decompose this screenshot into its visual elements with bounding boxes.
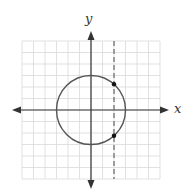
- intersection-point: [112, 82, 116, 86]
- plot-area: x y: [0, 0, 189, 193]
- x-axis-right-arrow-icon: [160, 107, 169, 114]
- y-axis-up-arrow-icon: [88, 31, 95, 40]
- y-axis-label: y: [84, 11, 93, 26]
- x-axis-label: x: [174, 101, 182, 116]
- intersection-point: [112, 134, 116, 138]
- y-axis-down-arrow-icon: [88, 180, 95, 189]
- axes: [12, 31, 169, 189]
- coordinate-plane-diagram: x y: [0, 0, 189, 193]
- x-axis-left-arrow-icon: [12, 107, 21, 114]
